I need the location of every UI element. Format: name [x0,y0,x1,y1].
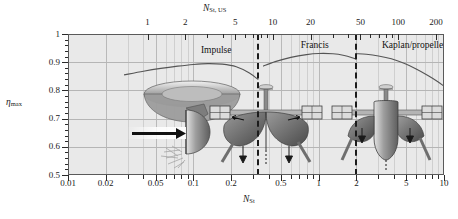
x-axis-tick-top [398,34,399,40]
y-axis-tick [65,113,69,114]
x-axis-tick-bottom [181,175,182,179]
y-axis-label: 1 [28,30,60,39]
x-axis-tick-top [223,34,224,38]
y-axis-tick [65,158,69,159]
x-axis-label-top: 10 [253,18,293,27]
turbine-efficiency-chart: NSt, US NSt ηmax [0,0,458,219]
x-axis-tick-top [185,34,186,40]
y-axis-tick [65,57,69,58]
x-axis-tick-top [360,34,361,40]
y-axis-tick [65,68,69,69]
y-axis-tick [65,96,69,97]
y-axis-tick [62,34,68,35]
x-axis-tick-top [273,34,274,40]
y-axis-title-subscript: max [11,100,22,107]
x-axis-label-bottom: 0.1 [173,179,213,188]
y-axis-tick [65,51,69,52]
x-axis-tick-top [348,34,349,38]
y-axis-label: 0.7 [28,114,60,123]
y-axis-tick [65,107,69,108]
y-axis-tick [65,164,69,165]
efficiency-curves-layer [68,34,444,175]
efficiency-curve-francis [263,53,356,66]
y-axis-tick [65,136,69,137]
x-axis-tick-bottom [416,175,417,179]
x-axis-tick-bottom [253,175,254,179]
x-axis-tick-top [379,34,380,38]
x-axis-label-top: 100 [378,18,418,27]
x-axis-tick-bottom [313,175,314,179]
efficiency-curve-impulse [124,64,258,80]
y-axis-tick [65,169,69,170]
y-axis-tick [65,152,69,153]
x-axis-tick-top [253,34,254,38]
y-axis-tick [62,147,68,148]
y-axis-tick [62,62,68,63]
y-axis-label: 0.9 [28,58,60,67]
x-axis-tick-top [267,34,268,38]
region-label-kaplan: Kaplan/propeller [382,40,444,50]
x-axis-tick-top [333,34,334,38]
y-axis-label: 0.8 [28,86,60,95]
x-axis-tick-bottom [425,175,426,179]
x-axis-tick-top [311,34,312,40]
region-divider [257,34,259,175]
x-axis-tick-bottom [174,175,175,179]
y-axis-tick [65,85,69,86]
x-axis-tick-bottom [166,175,167,179]
plot-area: Impulse Francis Kaplan/propeller [68,34,444,175]
x-axis-tick-top [207,34,208,38]
top-axis-title-subscript: St, US [209,6,226,13]
x-axis-tick-bottom [432,175,433,179]
x-axis-tick-bottom [269,175,270,179]
x-axis-tick-top [386,34,387,38]
y-axis-tick [65,40,69,41]
x-axis-label-top: 200 [416,18,456,27]
x-axis-tick-top [148,34,149,40]
x-axis-tick-top [245,34,246,38]
y-axis-tick [65,45,69,46]
x-axis-tick-bottom [128,175,129,179]
y-axis-tick [62,119,68,120]
x-axis-label-top: 5 [215,18,255,27]
x-axis-label-bottom: 0.05 [136,179,176,188]
x-axis-label-bottom: 0.5 [261,179,301,188]
y-axis-tick [65,141,69,142]
y-axis-tick [65,124,69,125]
x-axis-label-bottom: 1 [299,179,339,188]
x-axis-label-top: 20 [291,18,331,27]
x-axis-tick-top [392,34,393,38]
x-axis-label-bottom: 2 [336,179,376,188]
y-axis-label: 0.5 [28,171,60,180]
x-axis-label-bottom: 5 [386,179,426,188]
x-axis-label-bottom: 10 [424,179,458,188]
region-label-francis: Francis [301,40,329,50]
x-axis-tick-bottom [378,175,379,179]
region-divider [355,34,357,175]
x-axis-tick-bottom [307,175,308,179]
y-axis-tick [65,130,69,131]
y-axis-label: 0.6 [28,142,60,151]
x-axis-label-top: 50 [340,18,380,27]
region-label-impulse: Impulse [201,45,232,55]
x-axis-tick-top [436,34,437,40]
efficiency-curve-kaplan-propeller [356,54,444,86]
x-axis-tick-bottom [291,175,292,179]
y-axis-tick [62,175,68,176]
bottom-axis-title-subscript: St [249,197,254,204]
x-axis-tick-top [261,34,262,38]
top-axis-title: NSt, US [203,3,226,13]
x-axis-label-bottom: 0.01 [48,179,88,188]
x-axis-label-bottom: 0.02 [86,179,126,188]
y-axis-tick [65,102,69,103]
x-axis-tick-bottom [143,175,144,179]
y-axis-title: ηmax [6,97,22,107]
x-axis-tick-top [235,34,236,40]
x-axis-label-top: 2 [165,18,205,27]
bottom-axis-title: NSt [243,194,255,204]
y-axis-tick [65,79,69,80]
x-axis-tick-bottom [299,175,300,179]
x-axis-label-top: 1 [128,18,168,27]
x-axis-tick-bottom [394,175,395,179]
y-axis-tick [62,90,68,91]
